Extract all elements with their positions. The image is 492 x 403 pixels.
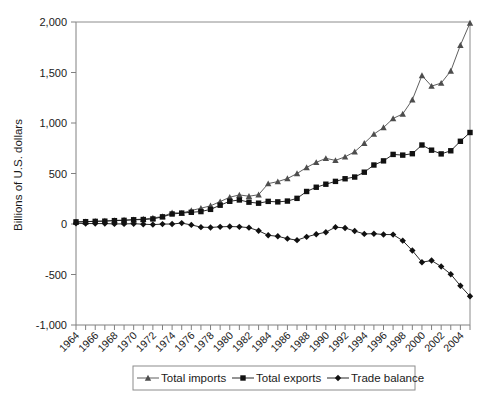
x-tick-label: 2000	[402, 329, 427, 354]
data-point-marker	[217, 224, 223, 230]
data-point-marker	[284, 235, 290, 241]
x-tick-label: 1988	[287, 329, 312, 354]
data-point-marker	[303, 164, 309, 170]
data-point-marker	[428, 257, 434, 263]
data-point-marker	[438, 151, 443, 156]
data-point-marker	[159, 221, 165, 227]
data-point-marker	[429, 147, 434, 152]
x-tick-label: 1996	[364, 329, 389, 354]
data-point-marker	[448, 68, 454, 74]
data-series-layer	[73, 20, 473, 300]
y-tick-label: 1,500	[39, 67, 67, 79]
data-point-marker	[448, 148, 453, 153]
data-point-marker	[208, 207, 213, 212]
data-point-marker	[189, 210, 194, 215]
x-tick-label: 1986	[268, 329, 293, 354]
data-point-marker	[256, 200, 261, 205]
data-point-marker	[275, 233, 281, 239]
data-point-marker	[467, 20, 473, 26]
data-point-marker	[314, 185, 319, 190]
data-point-marker	[313, 231, 319, 237]
data-point-marker	[265, 199, 270, 204]
x-tick-label: 1964	[56, 329, 81, 354]
data-point-marker	[294, 196, 299, 201]
legend-marker-square-icon	[240, 375, 245, 380]
data-point-marker	[150, 216, 155, 221]
x-tick-label: 1968	[95, 329, 120, 354]
data-point-marker	[467, 130, 472, 135]
data-point-marker	[400, 111, 406, 117]
data-point-marker	[236, 224, 242, 230]
data-point-marker	[361, 231, 367, 237]
data-point-marker	[390, 115, 396, 121]
data-point-marker	[332, 224, 338, 230]
data-point-marker	[390, 231, 396, 237]
data-point-marker	[342, 176, 347, 181]
data-point-marker	[188, 222, 194, 228]
legend-label: Total imports	[161, 372, 226, 384]
y-tick-label: -500	[45, 269, 67, 281]
chart-container: Billions of U.S. dollars 2,0001,5001,000…	[0, 0, 492, 403]
chart-legend: Total importsTotal exportsTrade balance	[133, 366, 424, 390]
data-point-marker	[380, 231, 386, 237]
data-point-marker	[160, 214, 165, 219]
x-tick-label: 1984	[249, 329, 274, 354]
y-axis-title: Billions of U.S. dollars	[12, 119, 24, 231]
data-point-marker	[255, 228, 261, 234]
data-point-marker	[237, 197, 242, 202]
x-tick-label: 1970	[114, 329, 139, 354]
data-point-marker	[285, 198, 290, 203]
data-point-marker	[284, 175, 290, 181]
data-point-marker	[323, 229, 329, 235]
y-axis-ticks: 2,0001,5001,0005000-500-1,000	[36, 16, 76, 331]
data-point-marker	[217, 203, 222, 208]
x-axis-ticks: 1964196619681970197219741976197819801982…	[56, 325, 470, 354]
legend-label: Total exports	[256, 372, 321, 384]
data-point-marker	[409, 97, 415, 103]
x-tick-label: 1980	[210, 329, 235, 354]
data-point-marker	[457, 42, 463, 48]
data-point-marker	[342, 225, 348, 231]
data-point-marker	[313, 159, 319, 165]
data-point-marker	[275, 199, 280, 204]
data-point-marker	[419, 142, 424, 147]
x-tick-label: 1994	[345, 329, 370, 354]
data-point-marker	[342, 154, 348, 160]
data-point-marker	[169, 221, 175, 227]
data-point-marker	[265, 232, 271, 238]
data-point-marker	[198, 209, 203, 214]
plot-axes	[76, 22, 470, 325]
x-tick-label: 2002	[422, 329, 447, 354]
data-point-marker	[362, 169, 367, 174]
x-tick-label: 1992	[325, 329, 350, 354]
y-tick-label: 1,000	[39, 117, 67, 129]
x-tick-label: 1978	[191, 329, 216, 354]
data-point-marker	[179, 210, 184, 215]
data-point-marker	[371, 230, 377, 236]
data-point-marker	[236, 192, 242, 198]
data-point-marker	[198, 224, 204, 230]
data-point-marker	[179, 220, 185, 226]
data-point-marker	[169, 211, 174, 216]
legend-label: Trade balance	[351, 372, 424, 384]
data-point-marker	[227, 223, 233, 229]
data-point-marker	[304, 189, 309, 194]
data-point-marker	[323, 182, 328, 187]
legend-items: Total importsTotal exportsTrade balance	[137, 372, 424, 384]
data-point-marker	[246, 224, 252, 230]
data-point-marker	[246, 199, 251, 204]
y-tick-label: -1,000	[36, 319, 67, 331]
data-point-marker	[303, 234, 309, 240]
data-point-marker	[150, 221, 156, 227]
data-point-marker	[371, 131, 377, 137]
data-point-marker	[294, 170, 300, 176]
data-point-marker	[352, 174, 357, 179]
series-trade-balance	[73, 220, 473, 300]
y-tick-label: 0	[61, 218, 67, 230]
x-tick-label: 1972	[133, 329, 158, 354]
series-total-exports	[73, 130, 472, 225]
x-tick-label: 1976	[172, 329, 197, 354]
data-point-marker	[381, 158, 386, 163]
data-point-marker	[323, 155, 329, 161]
line-chart: Billions of U.S. dollars 2,0001,5001,000…	[0, 0, 492, 403]
